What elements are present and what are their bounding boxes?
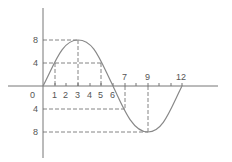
x-tick-label-7: 7 <box>122 72 127 82</box>
x-tick-label-6: 6 <box>110 90 115 100</box>
x-tick-label-4: 4 <box>87 90 92 100</box>
y-tick-label-pos8: 8 <box>33 35 38 45</box>
y-tick-label-neg4: 4 <box>33 104 38 114</box>
x-tick-label-2: 2 <box>63 90 68 100</box>
x-tick-label-9: 9 <box>145 72 150 82</box>
origin-label: 0 <box>30 90 35 100</box>
sine-wave-chart: 0 1 2 3 4 5 6 7 9 12 8 4 4 8 <box>0 0 232 162</box>
x-tick-label-5: 5 <box>98 90 103 100</box>
y-tick-label-neg8: 8 <box>33 127 38 137</box>
x-tick-label-12: 12 <box>176 72 186 82</box>
x-tick-label-3: 3 <box>75 90 80 100</box>
x-tick-label-1: 1 <box>52 90 57 100</box>
y-tick-label-pos4: 4 <box>33 58 38 68</box>
